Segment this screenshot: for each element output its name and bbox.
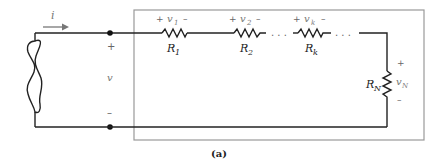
ellipsis-2: . . . xyxy=(335,27,351,38)
current-label: i xyxy=(51,9,55,22)
source-plus: + xyxy=(107,41,115,52)
source-minus: – xyxy=(107,107,112,118)
svg-text:v: v xyxy=(167,13,173,24)
svg-text:R: R xyxy=(239,42,248,55)
svg-text:v: v xyxy=(304,13,310,24)
resistor-r2-icon xyxy=(234,29,266,37)
resistor-rk-icon xyxy=(298,29,331,37)
series-circuit-diagram: i . . . . . . + v – + v 1 – R 1 + v 2 – … xyxy=(0,0,438,161)
svg-text:+: + xyxy=(397,58,405,68)
svg-text:–: – xyxy=(321,14,326,24)
resistor-r1-icon xyxy=(162,29,187,37)
svg-text:+: + xyxy=(156,14,164,24)
svg-text:N: N xyxy=(401,82,409,90)
source-wavy-icon xyxy=(27,33,42,113)
svg-text:k: k xyxy=(311,19,315,27)
svg-text:1: 1 xyxy=(174,19,178,27)
svg-text:–: – xyxy=(397,95,402,105)
node-top xyxy=(107,30,113,36)
svg-text:R: R xyxy=(166,42,175,55)
right-wire xyxy=(359,33,387,71)
svg-text:2: 2 xyxy=(247,48,253,57)
r2-name-label: R 2 xyxy=(239,42,253,57)
rn-voltage-label: + v N – xyxy=(396,58,409,105)
rk-name-label: R k xyxy=(304,42,318,57)
svg-text:+: + xyxy=(229,14,237,24)
ellipsis-1: . . . xyxy=(271,27,287,38)
svg-text:k: k xyxy=(313,48,318,57)
rk-voltage-label: + v k – xyxy=(293,13,326,27)
svg-text:–: – xyxy=(183,14,188,24)
source-voltage-label: v xyxy=(107,72,113,83)
svg-text:N: N xyxy=(373,84,382,93)
figure-caption: (a) xyxy=(211,148,227,159)
svg-text:–: – xyxy=(256,14,261,24)
svg-text:2: 2 xyxy=(246,19,252,27)
svg-text:+: + xyxy=(293,14,301,24)
svg-text:1: 1 xyxy=(175,48,180,57)
resistor-rn-icon xyxy=(383,71,391,127)
svg-text:v: v xyxy=(240,13,246,24)
r2-voltage-label: + v 2 – xyxy=(229,13,261,27)
r1-voltage-label: + v 1 – xyxy=(156,13,188,27)
r1-name-label: R 1 xyxy=(166,42,180,57)
svg-text:R: R xyxy=(365,78,374,91)
rn-name-label: R N xyxy=(365,78,382,93)
svg-text:R: R xyxy=(304,42,313,55)
current-arrow-icon xyxy=(43,24,69,31)
